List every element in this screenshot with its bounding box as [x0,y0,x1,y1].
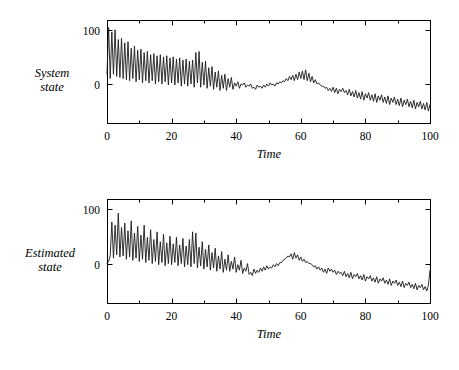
chart-panel-estimated-state: Estimated state 0204060801000100 Time [0,185,459,370]
data-series-line [107,213,430,291]
x-tick-label: 40 [230,310,242,322]
x-tick-label: 60 [295,130,307,142]
x-tick-label: 20 [166,130,178,142]
x-tick-label: 100 [421,310,439,322]
x-tick-label: 20 [166,310,178,322]
y-tick-label: 100 [83,25,101,37]
plot-area-system-state: 0204060801000100 [0,0,459,185]
x-tick-label: 60 [295,310,307,322]
x-tick-label: 100 [421,130,439,142]
x-tick-label: 0 [104,310,110,322]
x-tick-label: 0 [104,130,110,142]
y-tick-label: 0 [94,259,100,271]
y-tick-label: 0 [94,79,100,91]
figure: System state 0204060801000100 Time Estim… [0,0,459,370]
x-axis-label-system-state: Time [239,147,299,162]
chart-panel-system-state: System state 0204060801000100 Time [0,0,459,185]
x-axis-label-estimated-state: Time [239,327,299,342]
x-tick-label: 80 [360,130,372,142]
x-tick-label: 40 [230,130,242,142]
x-tick-label: 80 [360,310,372,322]
y-tick-label: 100 [83,204,101,216]
data-series-line [107,28,430,111]
plot-area-estimated-state: 0204060801000100 [0,185,459,370]
